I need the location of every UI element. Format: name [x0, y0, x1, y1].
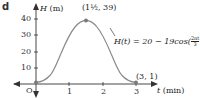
- y-tick-label-20: 20: [21, 48, 31, 56]
- x-axis-unit: (min): [163, 86, 185, 95]
- y-axis-arrow-up: [33, 3, 39, 10]
- x-tick-label-2: 2: [101, 88, 106, 96]
- x-tick-label-3: 3: [134, 88, 139, 96]
- point-peak: [84, 18, 88, 22]
- point-end: [134, 80, 138, 84]
- y-axis-var: H: [40, 4, 47, 13]
- curve-h-of-t: [36, 20, 136, 82]
- end-point-label: (3, 1): [136, 73, 158, 81]
- x-tick-label-1: 1: [67, 88, 72, 96]
- y-axis-unit: (m): [50, 4, 64, 13]
- function-pointer-line: [110, 28, 115, 36]
- function-rhs: ): [199, 37, 200, 46]
- origin-label: O: [26, 87, 33, 95]
- y-tick-label-30: 30: [21, 31, 31, 39]
- y-tick-label-10: 10: [21, 64, 31, 72]
- x-axis-arrow-left: [13, 81, 20, 87]
- function-label: H(t) = 20 − 19cos(2πt3): [114, 36, 200, 47]
- y-axis-arrow-down: [33, 91, 39, 98]
- y-axis-label: H (m): [40, 5, 63, 13]
- peak-point-label: (1½, 39): [82, 4, 116, 12]
- y-tick-label-40: 40: [21, 15, 31, 23]
- function-lhs: H(t) = 20 − 19cos(: [114, 37, 191, 46]
- x-axis-var: t: [157, 86, 160, 95]
- x-axis-label: t (min): [157, 87, 184, 95]
- point-origin: [34, 80, 38, 84]
